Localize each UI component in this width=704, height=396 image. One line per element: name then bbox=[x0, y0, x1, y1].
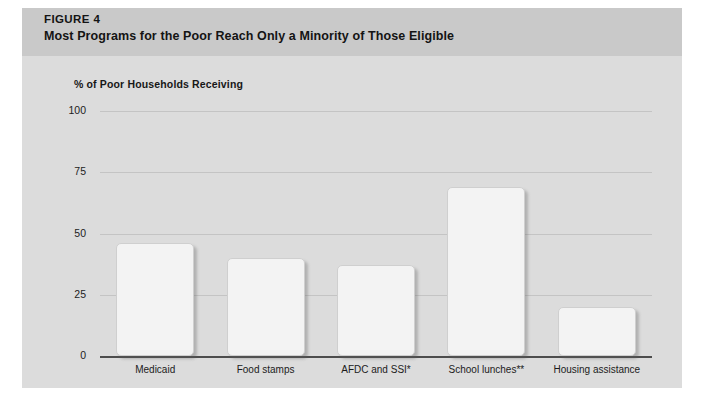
x-tick-label: Food stamps bbox=[210, 364, 320, 375]
figure-number-label: FIGURE 4 bbox=[44, 13, 100, 25]
figure-title: Most Programs for the Poor Reach Only a … bbox=[44, 29, 454, 43]
bars-layer bbox=[22, 56, 682, 388]
x-tick-label: AFDC and SSI* bbox=[321, 364, 431, 375]
x-tick-label: School lunches** bbox=[431, 364, 541, 375]
bar bbox=[558, 307, 636, 356]
x-tick-label: Housing assistance bbox=[542, 364, 652, 375]
x-tick-label: Medicaid bbox=[100, 364, 210, 375]
figure-container: FIGURE 4 Most Programs for the Poor Reac… bbox=[22, 8, 682, 388]
figure-header-band: FIGURE 4 Most Programs for the Poor Reac… bbox=[22, 8, 682, 56]
bar bbox=[447, 187, 525, 356]
bar bbox=[227, 258, 305, 356]
bar bbox=[116, 243, 194, 356]
bar bbox=[337, 265, 415, 356]
chart-plot-area: % of Poor Households Receiving 025507510… bbox=[22, 56, 682, 388]
